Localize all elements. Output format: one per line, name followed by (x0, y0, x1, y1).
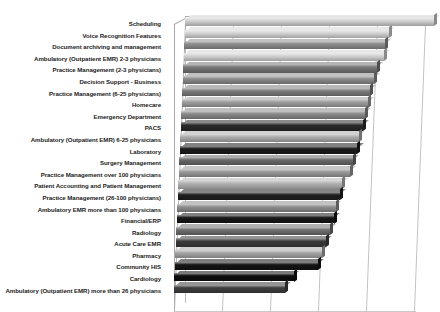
category-label: Pharmacy (0, 250, 166, 262)
category-label: Acute Care EMR (0, 238, 166, 250)
bar-face (174, 273, 293, 281)
bar (176, 238, 326, 246)
bar-face (178, 180, 342, 188)
category-label: Emergency Department (0, 111, 166, 123)
category-label: Voice Recognition Features (0, 30, 166, 42)
bar-top-face (184, 108, 371, 111)
bar-end-cap (384, 48, 387, 62)
bar-top-face (183, 143, 363, 146)
bar-top-face (187, 39, 391, 42)
bar-top-face (177, 282, 291, 285)
bar (178, 180, 342, 188)
bar (184, 53, 384, 61)
bar (183, 64, 377, 72)
bar-face (183, 64, 377, 72)
category-label: Cardiology (0, 273, 166, 285)
category-label: Decision Support - Business (0, 76, 166, 88)
bar-top-face (184, 120, 369, 123)
bar-face (181, 111, 365, 119)
bar (177, 215, 334, 223)
bar (177, 204, 335, 212)
bar-top-face (186, 62, 383, 65)
bar-top-face (178, 259, 324, 262)
bar-face (177, 215, 334, 223)
category-label: Document archiving and management (0, 41, 166, 53)
category-label: Ambulatory (Outpatient EMR) more than 26… (0, 285, 166, 297)
bar-top-face (177, 271, 299, 274)
bar-face (180, 146, 358, 154)
bar-end-cap (374, 71, 377, 85)
bar (181, 122, 363, 130)
bar (185, 18, 434, 26)
bar-end-cap (334, 210, 337, 224)
bar (179, 157, 353, 165)
bar (184, 41, 385, 49)
bar-face (176, 238, 326, 246)
category-label: Homecare (0, 99, 166, 111)
category-axis-labels: SchedulingVoice Recognition FeaturesDocu… (0, 18, 166, 302)
bar-face (184, 53, 384, 61)
category-label: Practice Management (26-100 physicians) (0, 192, 166, 204)
bar (180, 146, 358, 154)
bar (182, 88, 370, 96)
bar-top-face (182, 166, 356, 169)
category-label: Ambulatory EMR more than 100 physicians (0, 204, 166, 216)
bar-face (179, 157, 353, 165)
category-label: Ambulatory (Outpatient EMR) 2-3 physicia… (0, 53, 166, 65)
bar (183, 76, 374, 84)
bar-face (178, 192, 340, 200)
bar-end-cap (377, 59, 380, 73)
bar-face (183, 76, 374, 84)
bar-end-cap (357, 140, 360, 154)
bar-face (184, 41, 385, 49)
bar-top-face (181, 178, 348, 181)
bar-top-face (180, 213, 340, 216)
category-label: Laboratory (0, 146, 166, 158)
bar (176, 227, 330, 235)
bar-face (180, 134, 359, 142)
category-label: Financial/ERP (0, 215, 166, 227)
bar-top-face (180, 201, 341, 204)
bar (182, 99, 368, 107)
bar-face (175, 250, 321, 258)
bar (174, 285, 285, 293)
bar-end-cap (330, 222, 333, 236)
bar-top-face (182, 155, 359, 158)
bar-face (179, 169, 350, 177)
category-label: Surgery Management (0, 157, 166, 169)
bar-top-face (187, 50, 390, 53)
bar-series (166, 10, 439, 311)
bar-face (181, 122, 363, 130)
category-label: Ambulatory (Outpatient EMR) 6-25 physici… (0, 134, 166, 146)
bar-face (185, 18, 434, 26)
bar-end-cap (363, 117, 366, 131)
bar (181, 111, 365, 119)
bar (180, 134, 359, 142)
bar-face (176, 227, 330, 235)
bar-end-cap (294, 268, 297, 282)
category-label: PACS (0, 122, 166, 134)
bar-end-cap (322, 245, 325, 259)
bar-end-cap (340, 187, 343, 201)
bar-face (182, 88, 370, 96)
bar-top-face (185, 97, 374, 100)
category-label: Scheduling (0, 18, 166, 30)
bar-end-cap (318, 256, 321, 270)
bar (178, 192, 340, 200)
bar-end-cap (350, 164, 353, 178)
bar-top-face (185, 85, 376, 88)
bar-face (185, 30, 389, 38)
bar-end-cap (326, 233, 329, 247)
category-label: Practice Management (6-25 physicians) (0, 88, 166, 100)
bar (185, 30, 389, 38)
category-label: Practice Management over 100 physicians (0, 169, 166, 181)
bar-end-cap (353, 152, 356, 166)
bar-top-face (188, 27, 395, 30)
category-label: Patient Accounting and Patient Managemen… (0, 180, 166, 192)
bar-end-cap (434, 13, 437, 27)
bar (179, 169, 350, 177)
category-label: Community HIS (0, 261, 166, 273)
bar-top-face (179, 224, 335, 227)
bar-face (177, 204, 335, 212)
